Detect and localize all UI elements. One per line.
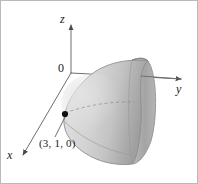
marked-point-label: (3, 1, 0) (39, 138, 76, 149)
z-axis-label: z (60, 13, 65, 25)
marked-point-dot (62, 111, 68, 117)
apex-highlight (61, 74, 125, 134)
figure-canvas (1, 1, 198, 184)
y-axis-label: y (176, 83, 181, 95)
origin-label: 0 (58, 62, 64, 74)
point-leader-line (55, 117, 65, 137)
x-axis-label: x (7, 149, 12, 161)
figure-container: z y x 0 (3, 1, 0) (0, 0, 198, 184)
